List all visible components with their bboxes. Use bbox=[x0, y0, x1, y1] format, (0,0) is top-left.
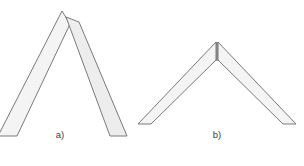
panel-a-label: a) bbox=[44, 130, 76, 140]
panel-b-label: b) bbox=[201, 130, 233, 140]
figure-caption-faint bbox=[0, 157, 304, 166]
panel-b-shape bbox=[138, 42, 296, 124]
chevron-diagram-svg bbox=[0, 0, 304, 166]
panel-a-shape bbox=[0, 11, 127, 136]
panel-a-right-band bbox=[66, 17, 127, 136]
figure-root: a) b) bbox=[0, 0, 304, 166]
panel-a-left-band bbox=[0, 11, 70, 136]
panel-b-right-band bbox=[218, 42, 296, 124]
panel-b-left-band bbox=[138, 42, 216, 124]
